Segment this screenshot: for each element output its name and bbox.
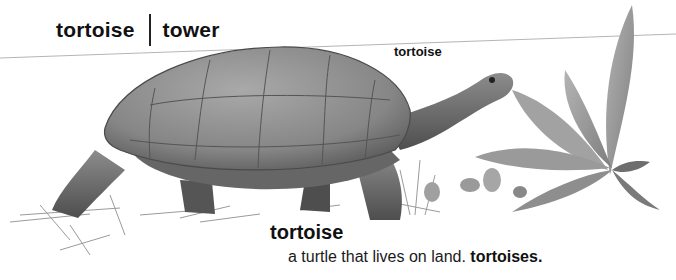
tortoise-shell: [105, 47, 411, 170]
tortoise-eye-icon: [489, 77, 495, 83]
entry-headword: tortoise: [270, 221, 343, 244]
entry-definition: a turtle that lives on land. tortoises.: [288, 248, 542, 266]
illustration-caption: tortoise: [394, 44, 442, 59]
definition-text: a turtle that lives on land.: [288, 248, 466, 265]
plural-form: tortoises.: [470, 248, 542, 265]
dictionary-page: tortoise tower: [0, 0, 676, 280]
tortoise-mid-leg: [180, 180, 215, 214]
tortoise-back-leg: [52, 150, 125, 218]
